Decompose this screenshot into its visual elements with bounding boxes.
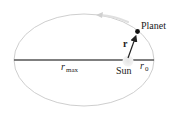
r-max-label: r max bbox=[61, 61, 79, 74]
planet-label: Planet bbox=[141, 20, 166, 31]
svg-text:max: max bbox=[66, 66, 79, 74]
svg-text:r: r bbox=[140, 60, 144, 71]
vector-r-label: r bbox=[123, 38, 128, 49]
orbit-diagram: Planet r Sun r max r 0 bbox=[0, 0, 177, 113]
sun-label: Sun bbox=[116, 65, 132, 76]
r-0-label: r 0 bbox=[140, 60, 149, 73]
svg-text:r: r bbox=[61, 61, 65, 72]
position-vector-r bbox=[128, 37, 136, 58]
orbit-direction-arrowhead bbox=[96, 12, 103, 18]
planet bbox=[135, 29, 140, 34]
svg-text:0: 0 bbox=[145, 65, 149, 73]
